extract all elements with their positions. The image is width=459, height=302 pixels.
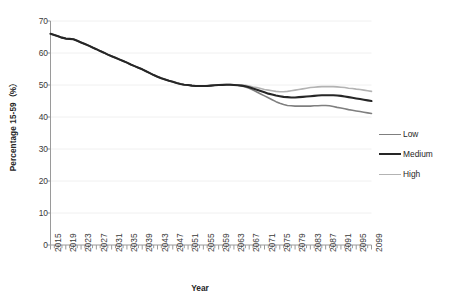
x-tick-label: 2075 bbox=[283, 233, 291, 252]
legend-swatch-low bbox=[379, 134, 401, 135]
x-tick-label: 2071 bbox=[268, 233, 276, 252]
legend-item-high[interactable]: High bbox=[379, 164, 457, 184]
x-tick-label: 2051 bbox=[191, 233, 199, 252]
legend-swatch-medium bbox=[379, 153, 401, 155]
x-tick-label: 2043 bbox=[161, 233, 169, 252]
x-tick-label: 2027 bbox=[100, 233, 108, 252]
x-tick-label: 2047 bbox=[176, 233, 184, 252]
x-tick-label: 2067 bbox=[252, 233, 260, 252]
x-tick-label: 2087 bbox=[329, 233, 337, 252]
x-tick-label: 2039 bbox=[145, 233, 153, 252]
legend-label-low: Low bbox=[403, 130, 418, 138]
x-tick-label: 2035 bbox=[130, 233, 138, 252]
x-tick-label: 2019 bbox=[69, 233, 77, 252]
x-tick-label: 2031 bbox=[115, 233, 123, 252]
x-axis-title-text: Year bbox=[191, 283, 209, 293]
x-tick-label: 2055 bbox=[207, 233, 215, 252]
legend-item-medium[interactable]: Medium bbox=[379, 144, 457, 164]
line-chart: Percentage 15-59（%） 010203040506070 2015… bbox=[0, 0, 459, 302]
chart-legend: LowMediumHigh bbox=[379, 124, 457, 184]
x-tick-label: 2015 bbox=[54, 233, 62, 252]
x-tick-label: 2079 bbox=[298, 233, 306, 252]
x-tick-label: 2083 bbox=[314, 233, 322, 252]
x-tick-label: 2099 bbox=[375, 233, 383, 252]
x-tick-label: 2091 bbox=[344, 233, 352, 252]
x-axis-title: Year bbox=[0, 283, 400, 293]
legend-label-medium: Medium bbox=[403, 150, 433, 158]
x-tick-label: 2023 bbox=[84, 233, 92, 252]
legend-swatch-high bbox=[379, 174, 401, 175]
x-tick-label: 2095 bbox=[359, 233, 367, 252]
legend-label-high: High bbox=[403, 170, 420, 178]
legend-item-low[interactable]: Low bbox=[379, 124, 457, 144]
x-tick-label: 2059 bbox=[222, 233, 230, 252]
x-tick-label: 2063 bbox=[237, 233, 245, 252]
